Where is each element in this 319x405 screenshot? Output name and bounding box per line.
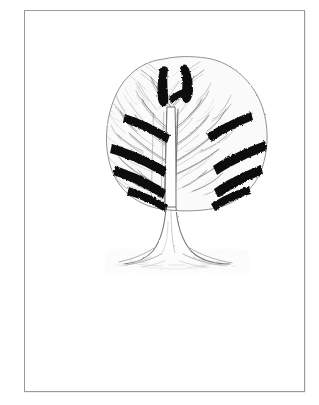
crown-central-stem: [165, 107, 176, 207]
trunk-shading: [171, 209, 175, 253]
caption-zone-empty: [25, 271, 304, 391]
page-root: [0, 0, 319, 405]
plate-frame-border: [24, 10, 305, 392]
trunk-inner-line: [161, 221, 168, 255]
ground-stipple: [117, 251, 237, 271]
plate-inner-area: [25, 11, 304, 391]
tree-crown: [101, 55, 270, 215]
